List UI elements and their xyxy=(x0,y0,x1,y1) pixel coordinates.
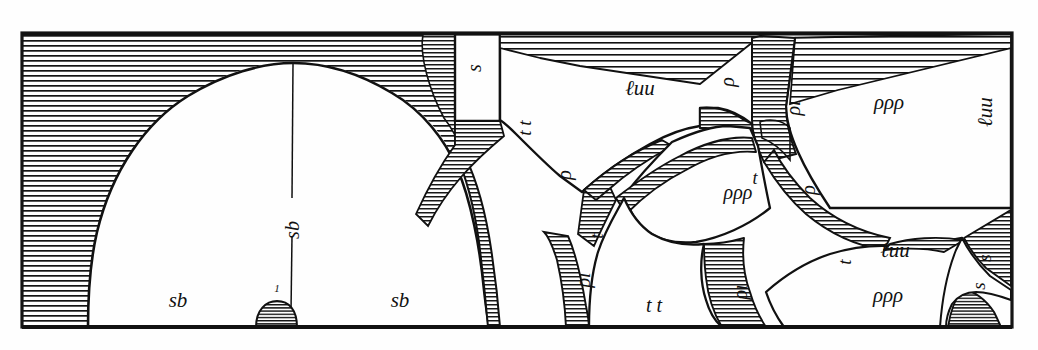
plate-label-one-marker: 1 xyxy=(274,283,280,294)
plate-label-luu-right: ℓuu xyxy=(975,97,996,127)
plate-label-rho3-lower: ρρρ xyxy=(873,285,903,306)
plate-label-sb-axis: sb xyxy=(282,221,302,239)
plate-label-tt-upper: t t xyxy=(515,120,534,135)
plate-label-rho3-upper: ρρρ xyxy=(874,92,904,113)
plate-label-tt-lower: t t xyxy=(646,295,662,315)
plate-label-luu-lower: ℓuu xyxy=(880,240,910,261)
plate-label-rho-i-upper: ρı xyxy=(783,100,803,115)
plate-label-sb-left: sb xyxy=(169,290,188,311)
top-white-box xyxy=(455,34,500,121)
lower-centre-band xyxy=(704,238,766,327)
plate-label-s-top-box: s xyxy=(464,64,484,72)
plate-label-t-lower-right: t xyxy=(835,259,854,264)
plate-label-rho-top: ρ xyxy=(717,77,737,87)
plate-label-t-mid: t xyxy=(587,233,606,238)
plate-label-rho3-mid: ρρρ xyxy=(724,182,753,202)
engraved-plate: sbsbsb1st tℓuuρρıρρρℓuuρtρρρtρρıt tρıtℓu… xyxy=(0,0,1038,350)
plate-label-sb-right: sb xyxy=(391,290,410,311)
plate-label-s-right-upper: s xyxy=(975,254,994,261)
plate-label-rho-mid-right: ρ xyxy=(798,185,818,195)
plate-label-rho-i-lower: ρı xyxy=(573,272,593,287)
plate-label-rho-i-lower2: ρı xyxy=(730,284,750,299)
plate-label-s-right-lower: s xyxy=(969,282,988,289)
plate-label-rho-midleft: ρ xyxy=(554,170,574,180)
plate-label-luu-top: ℓuu xyxy=(625,78,655,99)
plate-label-t-upper-mid: t xyxy=(752,169,757,187)
